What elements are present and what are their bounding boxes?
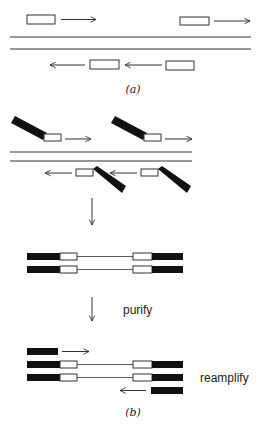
primer-box <box>180 17 209 25</box>
primer-box <box>133 266 152 273</box>
reamplify-label: reamplify <box>200 371 249 385</box>
primer-tail <box>111 116 147 140</box>
primer-box <box>133 361 152 368</box>
primer-forward-2 <box>180 17 250 25</box>
primer-tail <box>93 166 126 193</box>
tail-block <box>152 361 183 368</box>
product-strand-2 <box>27 374 183 381</box>
panel-b-label: (b) <box>125 406 141 419</box>
tail-block <box>27 374 60 381</box>
amplified-product <box>27 253 183 273</box>
primer-box <box>60 253 77 260</box>
tail-primer-reverse <box>120 387 183 394</box>
product-strand-2 <box>27 266 183 273</box>
tail-primer-forward <box>27 348 89 355</box>
primer-tail <box>158 166 191 193</box>
primer-box <box>144 134 161 141</box>
primer-box <box>60 266 77 273</box>
tail-block <box>152 374 183 381</box>
primer-box <box>60 374 77 381</box>
product-strand-1 <box>27 361 183 368</box>
panel-b: purify <box>10 116 249 419</box>
primer-box <box>76 169 93 176</box>
tail-block <box>27 361 60 368</box>
tail-block <box>27 253 60 260</box>
purify-label: purify <box>123 303 152 317</box>
primer-box <box>133 253 152 260</box>
product-strand-1 <box>27 253 183 260</box>
primer-box <box>27 15 55 24</box>
primer-box <box>141 169 158 176</box>
primer-box <box>90 60 119 69</box>
tail-block <box>152 253 183 260</box>
tailed-primer-forward-2 <box>111 116 192 141</box>
tail-block <box>151 387 183 394</box>
panel-a-label: (a) <box>125 83 140 96</box>
tail-block <box>27 266 60 273</box>
tail-block <box>152 266 183 273</box>
tailed-primer-reverse-1 <box>45 166 126 193</box>
primer-reverse-2 <box>125 61 194 70</box>
tail-block <box>27 348 58 355</box>
primer-reverse-1 <box>50 60 119 69</box>
primer-box <box>166 61 194 70</box>
primer-box <box>60 361 77 368</box>
reamplify-product <box>27 348 183 394</box>
primer-tail <box>11 116 47 140</box>
tailed-primer-forward-1 <box>11 116 91 141</box>
pcr-diagram: (a) <box>0 0 266 427</box>
primer-forward-1 <box>27 15 96 24</box>
panel-a: (a) <box>10 15 251 96</box>
primer-box <box>44 134 61 141</box>
primer-box <box>133 374 152 381</box>
